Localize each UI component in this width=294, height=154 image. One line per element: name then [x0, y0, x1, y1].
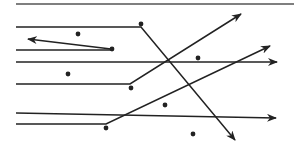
dot-marker [76, 32, 81, 37]
arrow-line [16, 46, 270, 124]
dot-marker [191, 132, 196, 137]
dot-marker [129, 86, 134, 91]
dot-marker [66, 72, 71, 77]
arrow-line [28, 39, 111, 49]
arrow-line [16, 113, 276, 118]
dot-marker [139, 22, 144, 27]
dot-marker [110, 47, 115, 52]
dot-marker [196, 56, 201, 61]
dots-group [66, 22, 201, 137]
arrow-line [16, 14, 241, 84]
lines-group [16, 14, 277, 140]
dot-marker [163, 103, 168, 108]
line-diagram [0, 0, 294, 154]
dot-marker [104, 126, 109, 131]
